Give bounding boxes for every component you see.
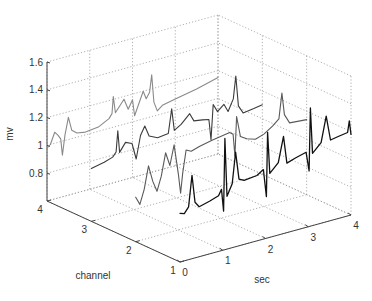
z-tick-label: 1.4 — [29, 84, 43, 95]
x-axis-label: sec — [254, 274, 270, 285]
floor-grid-line — [218, 154, 351, 215]
x-tick-label: 1 — [225, 255, 231, 266]
y-tick — [180, 261, 184, 262]
y-tick-label: 3 — [82, 224, 88, 235]
x-tick — [305, 225, 308, 227]
axes — [47, 62, 351, 262]
y-axis-label: channel — [75, 270, 110, 281]
ecg-3d-chart: 0.811.21.41.6123401234 mv channel sec — [0, 0, 372, 301]
ecg-trace-channel-1 — [180, 108, 351, 214]
x-tick — [263, 237, 266, 239]
x-tick-label: 0 — [182, 267, 188, 278]
floor-grid-line — [175, 166, 308, 227]
z-tick-label: 1.2 — [29, 112, 43, 123]
z-axis-label: mv — [4, 127, 15, 140]
x-tick — [348, 213, 351, 215]
z-tick-label: 1 — [37, 140, 43, 151]
z-tick-label: 0.8 — [29, 168, 43, 179]
side-wall-grid-line — [218, 15, 351, 76]
ecg-traces — [47, 75, 351, 214]
y-tick — [91, 220, 95, 221]
y-tick-label: 4 — [37, 204, 43, 215]
side-wall-grid-line — [218, 154, 351, 215]
y-axis-line — [47, 201, 180, 262]
y-tick — [47, 200, 51, 201]
y-tick-label: 1 — [170, 265, 176, 276]
floor-grid-line — [133, 178, 266, 239]
x-tick — [220, 248, 223, 250]
side-wall-grid-line — [218, 98, 351, 159]
back-wall-grid-line — [47, 43, 218, 90]
floor-grid-line — [90, 189, 223, 250]
x-tick-label: 4 — [353, 220, 359, 231]
x-tick-label: 3 — [310, 232, 316, 243]
x-tick-label: 2 — [268, 244, 274, 255]
z-tick-label: 1.6 — [29, 57, 43, 68]
back-wall-grid-line — [47, 126, 218, 173]
floor-grid-line — [91, 174, 262, 221]
y-tick — [136, 241, 140, 242]
side-wall-grid-line — [218, 126, 351, 187]
y-tick-label: 2 — [126, 245, 132, 256]
